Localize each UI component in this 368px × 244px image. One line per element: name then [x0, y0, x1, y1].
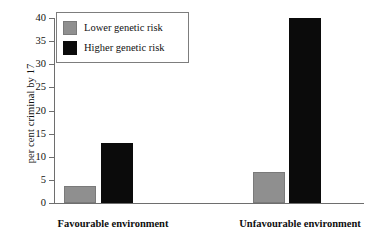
y-tick-15	[49, 134, 54, 135]
y-tick-label-35: 35	[6, 36, 46, 46]
y-tick-label-25: 25	[6, 82, 46, 92]
legend-label-lower: Lower genetic risk	[84, 22, 163, 34]
y-tick-label-10: 10	[6, 152, 46, 162]
bar-favourable-environment-lower-genetic-risk	[64, 186, 96, 203]
y-tick-label-0: 0	[6, 198, 46, 208]
bar-unfavourable-environment-higher-genetic-risk	[289, 18, 321, 203]
y-tick-20	[49, 111, 54, 112]
y-tick-label-15: 15	[6, 129, 46, 139]
group-label-unfavourable: Unfavourable environment	[190, 218, 368, 229]
y-tick-label-30: 30	[6, 59, 46, 69]
bar-chart: per cent criminal by 17 0510152025303540…	[0, 0, 368, 244]
legend-item-higher-genetic-risk: Higher genetic risk	[63, 38, 182, 58]
chart-legend: Lower genetic risk Higher genetic risk	[56, 12, 189, 63]
bar-favourable-environment-higher-genetic-risk	[101, 143, 133, 203]
legend-label-higher: Higher genetic risk	[84, 42, 164, 54]
x-axis-line	[54, 203, 364, 204]
legend-swatch-higher-icon	[63, 41, 77, 55]
bar-unfavourable-environment-lower-genetic-risk	[253, 172, 285, 203]
y-tick-0	[49, 203, 54, 204]
legend-swatch-lower-icon	[63, 21, 77, 35]
y-tick-10	[49, 157, 54, 158]
y-tick-5	[49, 180, 54, 181]
y-tick-40	[49, 18, 54, 19]
y-tick-label-20: 20	[6, 106, 46, 116]
y-axis-line	[54, 18, 55, 204]
y-tick-label-40: 40	[6, 13, 46, 23]
legend-item-lower-genetic-risk: Lower genetic risk	[63, 18, 182, 38]
y-tick-25	[49, 87, 54, 88]
y-tick-35	[49, 41, 54, 42]
y-tick-label-5: 5	[6, 175, 46, 185]
y-tick-30	[49, 64, 54, 65]
